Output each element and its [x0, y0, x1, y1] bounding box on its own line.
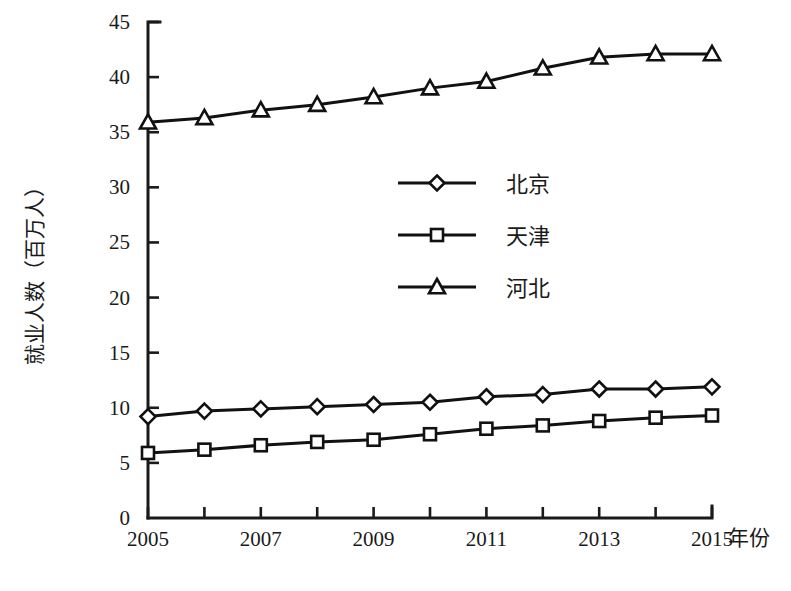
square-marker [593, 415, 605, 427]
diamond-marker [197, 404, 212, 419]
legend-item-天津: 天津 [398, 224, 550, 249]
square-marker [480, 423, 492, 435]
square-marker [424, 428, 436, 440]
line-chart: 051015202530354045 200520072009201120132… [0, 0, 791, 591]
x-tick-label: 2015 [691, 527, 733, 551]
square-icon [431, 229, 443, 241]
y-tick-label: 40 [109, 65, 130, 89]
y-tick-label: 45 [109, 10, 130, 34]
chart-page: 051015202530354045 200520072009201120132… [0, 0, 791, 591]
series-group [140, 46, 720, 459]
y-axis-ticks [148, 22, 159, 463]
legend-label: 天津 [506, 224, 550, 249]
legend-item-河北: 河北 [398, 276, 550, 301]
y-tick-label: 35 [109, 120, 130, 144]
x-tick-label: 2009 [353, 527, 395, 551]
x-axis-tick-labels: 200520072009201120132015 [127, 527, 733, 551]
x-axis-title: 年份 [728, 526, 770, 550]
diamond-marker [648, 382, 663, 397]
square-marker [198, 444, 210, 456]
series-河北 [140, 46, 720, 129]
square-marker [706, 409, 718, 421]
y-tick-label: 20 [109, 286, 130, 310]
series-天津 [142, 409, 718, 458]
legend-label: 河北 [506, 276, 550, 301]
diamond-marker [253, 401, 268, 416]
y-axis-tick-labels: 051015202530354045 [109, 10, 130, 530]
diamond-marker [310, 399, 325, 414]
x-tick-label: 2007 [240, 527, 282, 551]
square-marker [142, 447, 154, 459]
diamond-marker [592, 382, 607, 397]
x-tick-label: 2013 [578, 527, 620, 551]
y-axis-title: 就业人数（百万人） [23, 176, 47, 365]
square-marker [537, 419, 549, 431]
diamond-marker [366, 397, 381, 412]
x-axis-ticks [148, 507, 712, 518]
diamond-marker [479, 389, 494, 404]
diamond-marker [535, 387, 550, 402]
x-tick-label: 2005 [127, 527, 169, 551]
diamond-icon [430, 176, 445, 191]
legend-item-北京: 北京 [398, 172, 550, 197]
y-tick-label: 5 [120, 451, 131, 475]
diamond-marker [705, 379, 720, 394]
y-tick-label: 15 [109, 341, 130, 365]
y-tick-label: 30 [109, 175, 130, 199]
x-tick-label: 2011 [466, 527, 507, 551]
square-marker [311, 436, 323, 448]
diamond-marker [423, 395, 438, 410]
y-tick-label: 10 [109, 396, 130, 420]
square-marker [255, 439, 267, 451]
y-tick-label: 25 [109, 230, 130, 254]
y-axis-line [148, 22, 160, 518]
series-北京 [141, 379, 720, 424]
square-marker [650, 412, 662, 424]
diamond-marker [141, 409, 156, 424]
chart-legend: 北京天津河北 [398, 172, 550, 301]
square-marker [368, 434, 380, 446]
legend-label: 北京 [506, 172, 550, 197]
